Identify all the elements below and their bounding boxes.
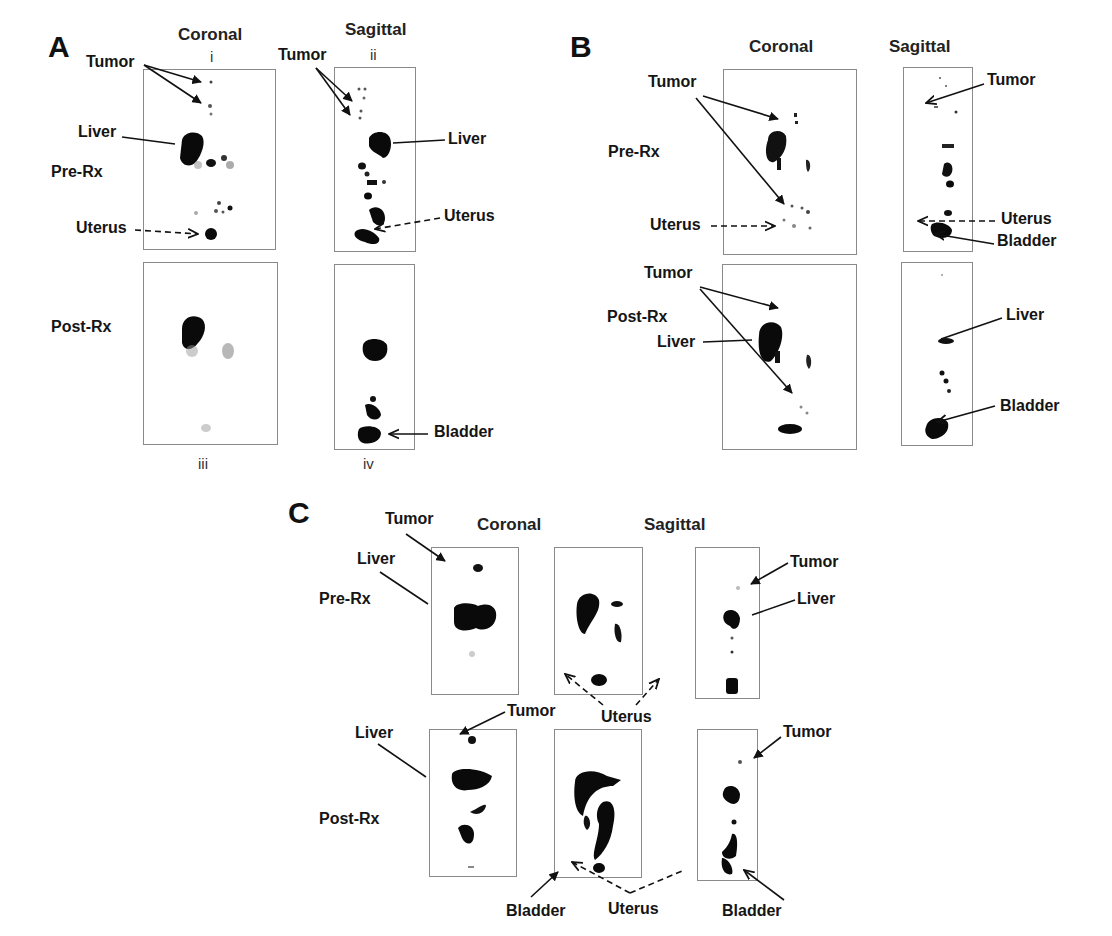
panel-b-sagittal-header: Sagittal <box>889 37 950 57</box>
panel-b-bladder-pre-sagittal-label: Bladder <box>997 232 1057 250</box>
panel-c-scan-post-coronal-1 <box>429 729 517 877</box>
panel-a-post-rx-label: Post-Rx <box>51 318 111 336</box>
panel-b-tumor-post-coronal-label: Tumor <box>644 264 693 282</box>
scan-image <box>904 68 974 253</box>
panel-a-roman-i: i <box>210 48 213 65</box>
panel-b-pre-rx-label: Pre-Rx <box>608 143 660 161</box>
panel-a-liver-coronal-label: Liver <box>78 123 116 141</box>
panel-a-tumor-sagittal-label: Tumor <box>278 46 327 64</box>
scan-image <box>696 548 761 700</box>
panel-c-scan-post-sagittal <box>697 729 758 881</box>
panel-b-post-rx-label: Post-Rx <box>607 308 667 326</box>
panel-c-scan-post-coronal-2 <box>554 729 642 878</box>
panel-c-tumor-pre-coronal-label: Tumor <box>385 510 434 528</box>
panel-a-roman-iii: iii <box>198 455 208 472</box>
panel-a-liver-sagittal-label: Liver <box>448 130 486 148</box>
panel-a-scan-pre-coronal <box>143 69 276 250</box>
panel-a-coronal-header: Coronal <box>178 25 242 45</box>
panel-b-liver-post-sagittal-label: Liver <box>1006 306 1044 324</box>
scan-image <box>723 265 858 451</box>
panel-b-uterus-pre-coronal-label: Uterus <box>650 216 701 234</box>
panel-c-letter: C <box>288 498 310 528</box>
panel-b-uterus-pre-sagittal-label: Uterus <box>1001 210 1052 228</box>
scan-image <box>335 265 416 451</box>
scan-image <box>902 263 974 447</box>
scan-image <box>724 70 858 256</box>
panel-c-coronal-header: Coronal <box>477 515 541 535</box>
panel-c-liver-post-coronal-label: Liver <box>355 724 393 742</box>
scan-image <box>335 68 417 253</box>
panel-b-letter: B <box>570 32 592 62</box>
panel-c-tumor-post-sagittal-label: Tumor <box>783 723 832 741</box>
panel-c-liver-pre-coronal-label: Liver <box>357 550 395 568</box>
panel-b-scan-post-coronal <box>722 264 857 450</box>
scan-image <box>555 730 643 879</box>
panel-a-scan-post-coronal <box>143 262 278 445</box>
panel-b-bladder-post-sagittal-label: Bladder <box>1000 397 1060 415</box>
panel-a-uterus-coronal-label: Uterus <box>76 219 127 237</box>
panel-c-tumor-pre-sagittal-label: Tumor <box>790 553 839 571</box>
panel-c-bladder-post-coronal-label: Bladder <box>506 902 566 920</box>
scan-image <box>698 730 759 882</box>
panel-c-uterus-post-label: Uterus <box>608 900 659 918</box>
panel-c-post-rx-label: Post-Rx <box>319 810 379 828</box>
panel-c-sagittal-header: Sagittal <box>644 515 705 535</box>
panel-c-liver-pre-sagittal-label: Liver <box>797 590 835 608</box>
panel-a-tumor-coronal-label: Tumor <box>86 53 135 71</box>
panel-a-sagittal-header: Sagittal <box>345 20 406 40</box>
panel-b-coronal-header: Coronal <box>749 37 813 57</box>
panel-c-bladder-post-sagittal-label: Bladder <box>722 902 782 920</box>
scan-image <box>555 548 644 696</box>
panel-a-roman-ii: ii <box>370 46 377 63</box>
scan-image <box>144 263 279 446</box>
panel-a-scan-post-sagittal <box>334 264 415 450</box>
panel-a-roman-iv: iv <box>363 455 374 472</box>
panel-c-tumor-post-coronal-label: Tumor <box>507 702 556 720</box>
panel-a-scan-pre-sagittal <box>334 67 416 252</box>
panel-c-scan-pre-coronal-1 <box>431 547 519 695</box>
panel-b-liver-post-coronal-label: Liver <box>657 333 695 351</box>
panel-b-tumor-pre-sagittal-label: Tumor <box>987 71 1036 89</box>
panel-a-uterus-sagittal-label: Uterus <box>444 207 495 225</box>
panel-c-scan-pre-sagittal <box>695 547 760 699</box>
scan-image <box>430 730 518 878</box>
panel-a-bladder-sagittal-label: Bladder <box>434 423 494 441</box>
panel-b-scan-pre-coronal <box>723 69 857 255</box>
panel-b-scan-pre-sagittal <box>903 67 973 252</box>
scan-image <box>144 70 277 251</box>
panel-b-scan-post-sagittal <box>901 262 973 446</box>
panel-c-scan-pre-coronal-2 <box>554 547 643 695</box>
panel-a-pre-rx-label: Pre-Rx <box>51 163 103 181</box>
panel-b-tumor-pre-coronal-label: Tumor <box>648 73 697 91</box>
panel-c-pre-rx-label: Pre-Rx <box>319 590 371 608</box>
scan-image <box>432 548 520 696</box>
panel-a-letter: A <box>48 32 70 62</box>
panel-c-uterus-middle-label: Uterus <box>601 708 652 726</box>
